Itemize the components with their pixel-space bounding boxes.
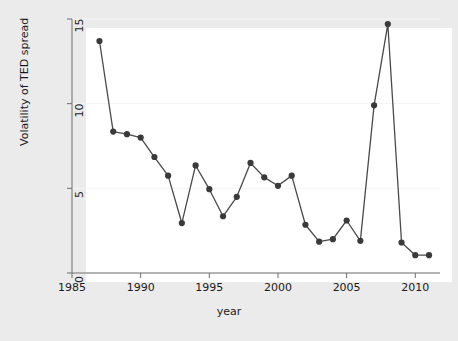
data-point [371,102,377,108]
x-axis-title: year [0,305,458,318]
data-point [206,186,212,192]
y-tick-label: 10 [73,102,86,118]
y-axis-ticks [67,19,72,273]
data-point [234,194,240,200]
data-point [151,154,157,160]
data-series-line [99,24,429,255]
data-point [289,173,295,179]
data-point [165,173,171,179]
data-point [192,162,198,168]
data-point [344,217,350,223]
data-point [330,236,336,242]
x-tick-label: 1985 [58,281,86,294]
gridlines [72,19,440,273]
data-point [247,160,253,166]
x-axis-ticks [72,273,415,278]
data-point [385,21,391,27]
data-point [110,129,116,135]
chart-figure: 051015 198519901995200020052010 Volatili… [0,0,458,341]
y-tick-label: 15 [73,18,86,34]
x-tick-label: 2000 [264,281,292,294]
data-point [138,134,144,140]
data-point [302,222,308,228]
x-tick-label: 1995 [195,281,223,294]
data-point [261,174,267,180]
data-point [220,213,226,219]
x-tick-label: 1990 [127,281,155,294]
data-point [426,252,432,258]
data-point [398,239,404,245]
x-tick-label: 2010 [401,281,429,294]
y-axis-title: Volatility of TED spread [18,18,31,146]
data-point [412,252,418,258]
x-tick-label: 2005 [333,281,361,294]
data-point [124,131,130,137]
data-point [316,239,322,245]
data-point [357,238,363,244]
data-point [179,220,185,226]
data-point [96,38,102,44]
data-point [275,183,281,189]
y-tick-label: 5 [73,187,86,203]
